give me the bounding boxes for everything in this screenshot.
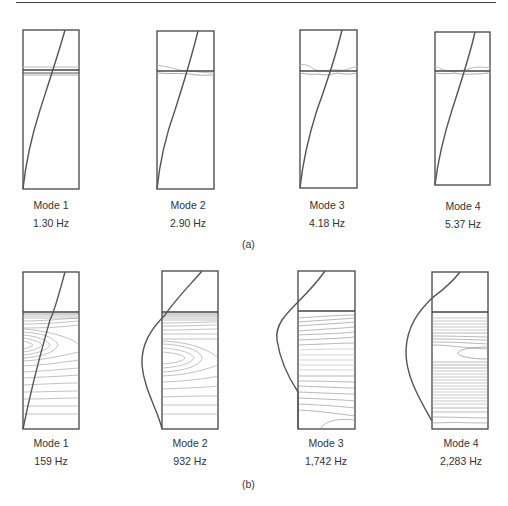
- panel-a-mode-3-label: Mode 3: [287, 199, 367, 211]
- panel-a-mode-1: [23, 30, 79, 189]
- panel-a-mode-1-label: Mode 1: [11, 199, 91, 211]
- panel-a-mode-3: [300, 30, 357, 188]
- panel-b-mode-3: [277, 271, 355, 429]
- panel-a-mode-2-frequency: 2.90 Hz: [148, 217, 228, 229]
- mode-shapes-figure: [0, 0, 508, 506]
- panel-b-caption: (b): [242, 478, 255, 490]
- panel-b-mode-1-label: Mode 1: [11, 437, 91, 449]
- panel-b-mode-1: [23, 272, 79, 429]
- panel-b-mode-4: [406, 272, 488, 429]
- panel-a-mode-3-frequency: 4.18 Hz: [287, 217, 367, 229]
- panel-b-mode-2: [142, 271, 218, 429]
- panel-b-mode-4-label: Mode 4: [421, 437, 501, 449]
- panel-b-mode-2-frequency: 932 Hz: [150, 455, 230, 467]
- panel-b-mode-4-frequency: 2,283 Hz: [421, 455, 501, 467]
- panel-b-mode-1-frequency: 159 Hz: [11, 455, 91, 467]
- panel-a-mode-2-label: Mode 2: [148, 199, 228, 211]
- panel-a-mode-2: [157, 31, 214, 189]
- panel-a-mode-4: [435, 32, 490, 185]
- panel-a-mode-1-frequency: 1.30 Hz: [11, 217, 91, 229]
- panel-a-mode-4-frequency: 5.37 Hz: [423, 218, 503, 230]
- panel-a-caption: (a): [242, 238, 255, 250]
- panel-b-mode-3-label: Mode 3: [286, 437, 366, 449]
- panel-b-mode-2-label: Mode 2: [150, 437, 230, 449]
- panel-b-mode-3-frequency: 1,742 Hz: [286, 455, 366, 467]
- panel-a-mode-4-label: Mode 4: [423, 200, 503, 212]
